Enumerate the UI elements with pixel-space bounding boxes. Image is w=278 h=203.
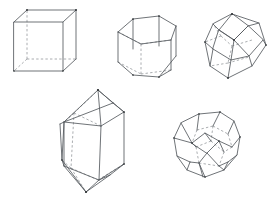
trunc-oct-visible-edges: [174, 112, 240, 177]
crystal-forms-canvas: [0, 0, 278, 203]
shape-hexagonal-prism: [118, 15, 176, 78]
hex-prism-vertices: [132, 15, 160, 78]
quartz-hidden-edges: [62, 90, 124, 192]
rhombic-dodec-hidden-edges: [205, 24, 252, 66]
shape-cube: [13, 9, 77, 72]
shape-rhombic-dodecahedron: [204, 13, 267, 79]
shape-truncated-octahedron: [173, 111, 241, 178]
shape-quartz-crystal: [60, 89, 125, 193]
trunc-oct-hidden-edges: [192, 126, 232, 166]
hex-prism-hidden-edges: [118, 32, 171, 74]
cube-visible-edges: [14, 10, 76, 71]
crystal-forms-figure: [0, 0, 278, 203]
hex-prism-visible-edges: [118, 16, 176, 77]
rhombic-dodec-visible-edges: [205, 14, 266, 78]
trunc-oct-vertices: [173, 111, 241, 178]
quartz-visible-edges: [60, 90, 124, 192]
